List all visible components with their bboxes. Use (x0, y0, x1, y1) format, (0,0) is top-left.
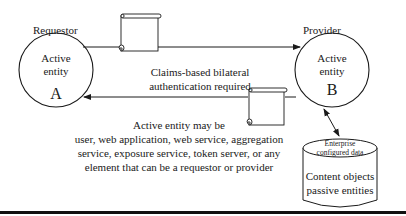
provider-entity-text-line2: entity (312, 65, 352, 78)
provider-letter: B (322, 82, 342, 98)
data-store-top-line1: Enterprise (305, 139, 375, 148)
requestor-letter: A (46, 86, 66, 102)
entity-types-caption-line1: Active entity may be (60, 119, 298, 132)
data-store-body-line2: passive entities (300, 184, 380, 197)
data-store-top-line2: configured data (305, 148, 375, 157)
entity-types-caption-line2: user, web application, web service, aggr… (60, 133, 298, 146)
authentication-caption-line2: authentication required (120, 80, 280, 93)
scroll-icon (119, 14, 161, 51)
requestor-entity-text-line1: Active (36, 52, 76, 65)
data-access-arrow (324, 109, 339, 136)
entity-types-caption-line3: service, exposure service, token server,… (60, 147, 298, 160)
requestor-entity-text-line2: entity (36, 65, 76, 78)
provider-label: Provider (303, 25, 341, 36)
requestor-label: Requestor (33, 25, 78, 36)
data-store-body-line1: Content objects (300, 170, 380, 183)
authentication-caption-line1: Claims-based bilateral (120, 66, 280, 79)
entity-types-caption-line4: element that can be a requestor or provi… (60, 161, 298, 174)
provider-entity-text-line1: Active (312, 52, 352, 65)
bottom-divider (0, 211, 406, 214)
